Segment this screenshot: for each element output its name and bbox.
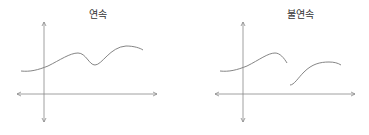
- continuous-curve: [21, 46, 143, 71]
- continuous-panel: 연속: [0, 0, 185, 135]
- continuous-graph: [0, 0, 185, 135]
- curve-segment-2: [290, 62, 341, 85]
- discontinuous-graph: [184, 0, 369, 135]
- discontinuous-panel: 불연속: [184, 0, 369, 135]
- curve-segment-1: [220, 53, 287, 71]
